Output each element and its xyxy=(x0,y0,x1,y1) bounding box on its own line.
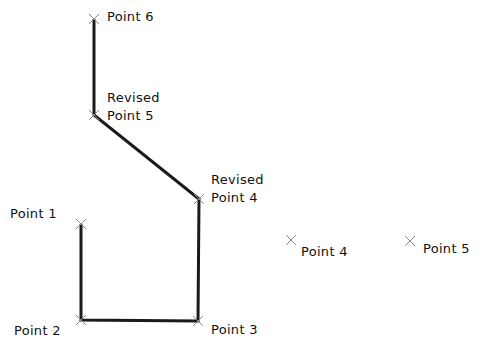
label-text: Point 3 xyxy=(211,321,258,339)
label-revised-point-4: RevisedPoint 4 xyxy=(211,171,264,207)
label-point-4: Point 4 xyxy=(301,243,348,261)
label-text: Point 5 xyxy=(107,107,160,125)
label-text: Revised xyxy=(107,89,160,107)
label-point-2: Point 2 xyxy=(14,322,61,340)
label-text: Revised xyxy=(211,171,264,189)
label-text: Point 4 xyxy=(211,189,264,207)
label-text: Point 1 xyxy=(10,205,57,223)
label-point-5: Point 5 xyxy=(423,240,470,258)
label-point-1: Point 1 xyxy=(10,205,57,223)
revised-path-line xyxy=(81,19,199,321)
label-text: Point 5 xyxy=(423,240,470,258)
label-text: Point 4 xyxy=(301,243,348,261)
point-markers xyxy=(76,14,415,326)
label-text: Point 2 xyxy=(14,322,61,340)
label-revised-point-5: RevisedPoint 5 xyxy=(107,89,160,125)
label-point-3: Point 3 xyxy=(211,321,258,339)
label-point-6: Point 6 xyxy=(107,8,154,26)
label-text: Point 6 xyxy=(107,8,154,26)
